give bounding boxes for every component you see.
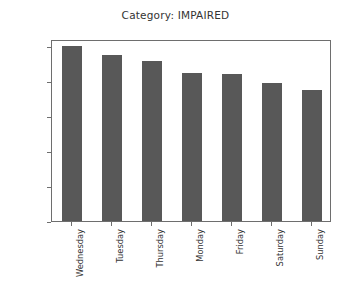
x-tick-label: Monday [195,229,205,262]
x-tick-label: Tuesday [115,229,125,263]
bar [262,83,282,221]
x-tick-mark [191,222,192,226]
x-tick-mark [71,222,72,226]
plot-area [51,40,331,222]
x-tick-mark [151,222,152,226]
y-tick-mark [47,222,51,223]
bar [102,55,122,221]
bar-chart-figure: Category: IMPAIRED 050001000015000200002… [0,0,351,293]
x-tick-mark [271,222,272,226]
x-tick-mark [231,222,232,226]
bar [222,74,242,221]
x-tick-mark [111,222,112,226]
x-tick-label: Thursday [155,229,165,268]
bar [302,90,322,221]
x-tick-label: Wednesday [75,229,85,277]
bar [142,61,162,221]
bar [62,46,82,221]
x-tick-label: Friday [235,229,245,254]
chart-title: Category: IMPAIRED [0,9,351,21]
bar [182,73,202,221]
x-tick-mark [311,222,312,226]
x-tick-label: Sunday [315,229,325,260]
x-tick-label: Saturday [275,229,285,266]
bars-layer [52,41,330,221]
